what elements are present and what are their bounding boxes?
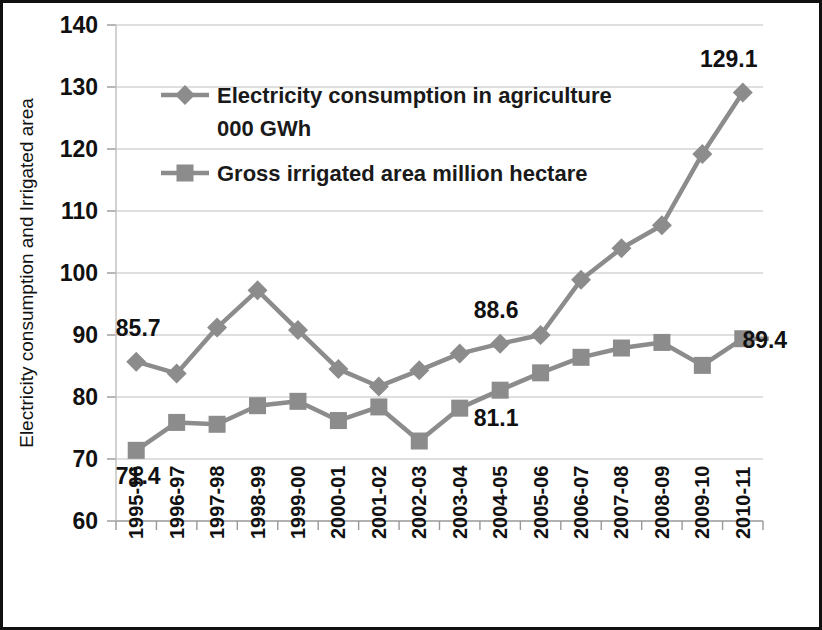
- data-point-marker: [653, 334, 670, 351]
- y-axis-tick-label: 110: [61, 198, 98, 224]
- x-axis-category-label: 1998-99: [247, 466, 269, 539]
- data-point-value-label: 89.4: [742, 327, 787, 353]
- y-axis-tick-label: 100: [60, 260, 98, 286]
- series-line: [136, 339, 743, 451]
- data-point-marker: [249, 397, 266, 414]
- x-axis-category-label: 2004-05: [489, 466, 511, 539]
- x-axis-category-label: 1999-00: [287, 466, 309, 539]
- data-point-value-label: 71.4: [116, 463, 161, 489]
- data-point-value-label: 81.1: [474, 405, 519, 431]
- x-axis-category-label: 2008-09: [651, 466, 673, 539]
- data-point-marker: [289, 393, 306, 410]
- x-axis-category-label: 2000-01: [327, 466, 349, 539]
- data-point-marker: [411, 433, 428, 450]
- y-axis-tick-label: 80: [72, 384, 98, 410]
- data-point-marker: [613, 340, 630, 357]
- y-axis-title: Electricity consumption and Irrigated ar…: [16, 98, 37, 448]
- x-axis-category-label: 2005-06: [530, 466, 552, 539]
- data-point-marker: [369, 376, 389, 396]
- y-axis-tick-label: 90: [72, 322, 98, 348]
- data-point-marker: [168, 414, 185, 431]
- data-point-marker: [490, 334, 510, 354]
- y-axis-tick-label: 140: [60, 12, 98, 38]
- data-point-marker: [409, 360, 429, 380]
- x-axis-category-label: 1996-97: [166, 466, 188, 539]
- data-point-marker: [370, 398, 387, 415]
- chart-frame: 607080901001101201301401995-961996-97199…: [0, 0, 822, 630]
- x-axis-category-label: 2010-11: [732, 467, 754, 539]
- data-point-marker: [573, 349, 590, 366]
- legend: Electricity consumption in agriculture00…: [161, 83, 612, 186]
- data-point-value-label: 88.6: [474, 297, 519, 323]
- data-point-marker: [128, 442, 145, 459]
- data-point-marker: [330, 412, 347, 429]
- data-point-marker: [209, 416, 226, 433]
- legend-label-line2: 000 GWh: [217, 116, 311, 141]
- data-point-marker: [652, 215, 672, 235]
- x-axis-category-label: 2006-07: [570, 466, 592, 539]
- x-axis-category-label: 2009-10: [691, 466, 713, 539]
- y-axis-tick-label: 70: [72, 446, 98, 472]
- legend-label: Gross irrigated area million hectare: [217, 161, 587, 186]
- y-axis-tick-label: 130: [60, 74, 98, 100]
- data-point-marker: [532, 364, 549, 381]
- x-axis-category-label: 2002-03: [408, 466, 430, 539]
- data-point-value-label: 129.1: [700, 46, 758, 72]
- data-point-marker: [492, 382, 509, 399]
- x-axis-category-label: 2003-04: [449, 465, 471, 539]
- x-axis-category-label: 2001-02: [368, 466, 390, 539]
- x-axis-group: 1995-961996-971997-981998-991999-002000-…: [116, 465, 763, 539]
- data-point-marker: [126, 352, 146, 372]
- data-point-marker: [175, 85, 195, 105]
- data-point-value-label: 85.7: [116, 315, 161, 341]
- line-chart: 607080901001101201301401995-961996-97199…: [3, 3, 822, 630]
- data-point-marker: [451, 400, 468, 417]
- legend-label: Electricity consumption in agriculture: [217, 83, 612, 108]
- y-axis-tick-label: 60: [72, 508, 98, 534]
- x-axis-category-label: 1997-98: [206, 466, 228, 539]
- data-point-marker: [177, 165, 194, 182]
- x-axis-category-label: 2007-08: [610, 466, 632, 539]
- data-point-marker: [694, 357, 711, 374]
- data-point-marker: [450, 344, 470, 364]
- series-group: [128, 330, 752, 459]
- y-axis-tick-label: 120: [60, 136, 98, 162]
